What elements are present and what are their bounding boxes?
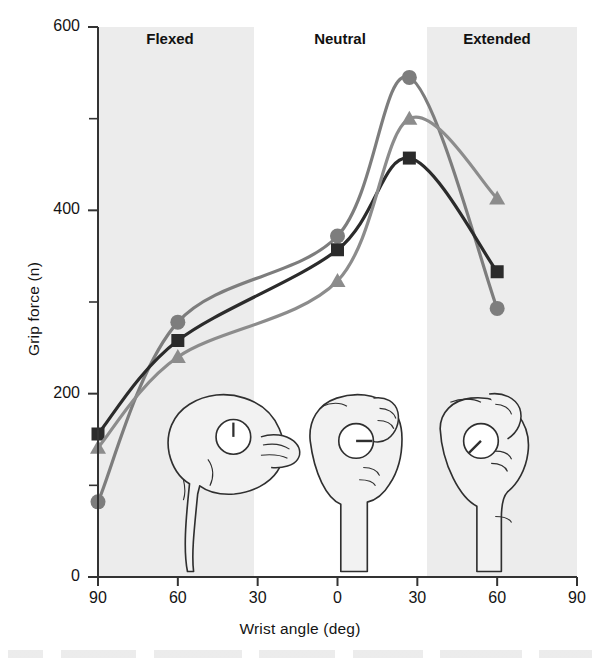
caption-partial [8, 650, 592, 658]
y-tick-label: 400 [34, 200, 80, 218]
x-tick-label: 90 [75, 589, 121, 607]
y-tick-label: 200 [34, 384, 80, 402]
data-point-circle [330, 229, 345, 244]
data-point-circle [490, 301, 505, 316]
band-label-flexed: Flexed [110, 30, 230, 47]
y-axis-title: Grip force (n) [25, 229, 43, 389]
y-tick-label: 600 [34, 17, 80, 35]
x-tick-label: 30 [394, 589, 440, 607]
x-tick-label: 30 [235, 589, 281, 607]
x-axis-title: Wrist angle (deg) [0, 620, 600, 638]
x-tick-label: 0 [315, 589, 361, 607]
data-point-circle [170, 315, 185, 330]
y-tick-label: 0 [34, 567, 80, 585]
chart-canvas [0, 0, 600, 663]
data-point-square [331, 243, 344, 256]
data-point-square [491, 265, 504, 278]
x-tick-marks [98, 577, 577, 586]
band-label-neutral: Neutral [280, 30, 400, 47]
data-point-square [403, 152, 416, 165]
figure-grip-force-vs-wrist-angle: Flexed Neutral Extended Grip force (n) W… [0, 0, 600, 663]
data-point-circle [402, 70, 417, 85]
data-point-square [171, 334, 184, 347]
band-label-extended: Extended [437, 30, 557, 47]
x-tick-label: 60 [474, 589, 520, 607]
x-tick-label: 90 [554, 589, 600, 607]
x-tick-label: 60 [155, 589, 201, 607]
